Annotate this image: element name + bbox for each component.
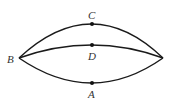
point-d [90,43,94,47]
label-d: D [87,50,96,62]
point-c [90,22,94,26]
point-a [90,81,94,85]
label-b: B [7,53,14,65]
label-a: A [87,88,95,100]
label-c: C [88,9,96,21]
diagram-canvas: C D A B [0,0,175,105]
